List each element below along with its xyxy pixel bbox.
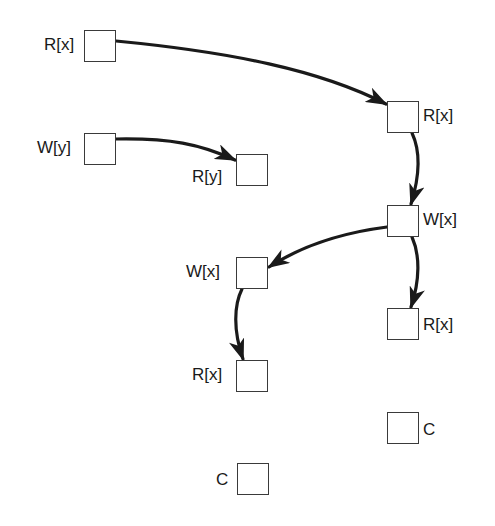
edge-arrow-n2-n5 — [411, 133, 418, 204]
node-label: R[x] — [192, 365, 222, 385]
node-box — [236, 360, 268, 392]
node-label: W[x] — [423, 210, 457, 230]
node-label: W[x] — [186, 262, 220, 282]
node-label: R[x] — [423, 315, 453, 335]
edge-arrow-n6-n8 — [236, 289, 243, 359]
node-box — [387, 412, 419, 444]
node-box — [387, 308, 419, 340]
node-box — [84, 133, 116, 165]
node-label: R[x] — [423, 106, 453, 126]
node-box — [236, 154, 268, 186]
node-box — [387, 101, 419, 133]
node-box — [84, 30, 116, 62]
node-box — [387, 205, 419, 237]
node-label: R[x] — [44, 35, 74, 55]
edge-arrow-n3-n4 — [116, 139, 235, 160]
node-label: C — [423, 420, 435, 440]
node-label: C — [216, 470, 228, 490]
node-label: R[y] — [192, 167, 222, 187]
edge-arrow-n5-n6 — [269, 227, 387, 267]
edge-arrow-n5-n7 — [411, 237, 418, 307]
diagram-canvas: R[x] R[x] W[y] R[y] W[x] W[x] R[x] R[x] … — [0, 0, 495, 526]
node-box — [237, 463, 269, 495]
node-box — [236, 257, 268, 289]
node-label: W[y] — [37, 138, 71, 158]
edge-arrow-n1-n2 — [116, 41, 386, 104]
